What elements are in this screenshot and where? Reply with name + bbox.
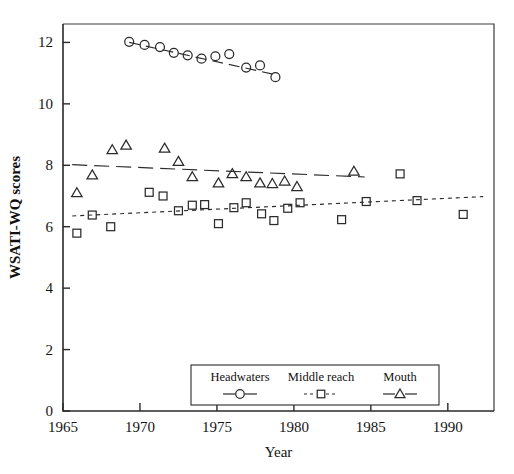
data-point [159,143,169,152]
data-point [225,50,234,59]
data-points [72,37,468,237]
data-point [188,201,196,209]
data-point [140,40,149,49]
data-point [173,156,183,165]
y-tick-label: 2 [46,342,54,358]
y-tick-label: 10 [38,96,53,112]
x-axis-title: Year [265,444,293,460]
data-point [396,170,404,178]
data-point [215,220,223,228]
data-point [156,43,165,52]
scatter-chart: 024681012196519701975198019851990 Headwa… [0,0,514,474]
legend-label-mouth: Mouth [383,370,417,384]
chart-legend: HeadwatersMiddle reachMouth [191,365,439,405]
y-tick-label: 0 [46,403,54,419]
data-point [187,172,197,181]
data-point [125,37,134,46]
data-point [230,204,238,212]
y-axis-title: WSATI-WQ scores [7,156,23,279]
data-point [349,166,359,175]
x-tick-label: 1970 [125,419,155,435]
legend-label-headwaters: Headwaters [211,370,270,384]
data-point [338,216,346,224]
trend-line-mouth [72,165,364,177]
data-point [121,140,131,149]
data-point [242,63,251,72]
data-point [255,178,265,187]
data-point [227,169,237,178]
data-point [201,201,209,209]
series-mouth [72,140,360,197]
data-point [279,176,289,185]
data-point [107,223,115,231]
data-point [413,197,421,205]
data-point [87,170,97,179]
x-tick-label: 1980 [279,419,309,435]
data-point [270,217,278,225]
data-point [211,52,220,61]
x-tick-label: 1985 [356,419,386,435]
figure-container: 024681012196519701975198019851990 Headwa… [0,0,514,474]
x-tick-label: 1990 [433,419,463,435]
caption-fragment [0,462,514,474]
y-tick-label: 6 [46,219,54,235]
data-point [213,178,223,187]
series-headwaters [125,37,280,81]
legend-label-middle-reach: Middle reach [288,370,355,384]
trend-line-headwaters [129,42,275,74]
data-point [72,188,82,197]
data-point [258,210,266,218]
x-tick-label: 1965 [48,419,78,435]
y-tick-label: 8 [46,157,54,173]
trend-lines [72,42,483,216]
y-tick-label: 12 [38,34,53,50]
data-point [292,182,302,191]
data-point [145,188,153,196]
data-point [159,192,167,200]
series-middle-reach [73,170,467,237]
y-tick-label: 4 [46,280,54,296]
data-point [73,229,81,237]
data-point [241,172,251,181]
data-point [271,73,280,82]
x-tick-label: 1975 [202,419,232,435]
data-point [267,178,277,187]
data-point [242,199,250,207]
data-point [256,61,265,70]
data-point [107,145,117,154]
data-point [459,210,467,218]
data-point [169,48,178,57]
